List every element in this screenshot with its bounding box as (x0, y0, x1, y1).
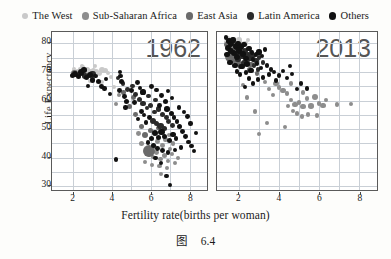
gridline-horizontal (217, 143, 377, 144)
scatter-point (170, 96, 174, 100)
scatter-point (176, 156, 180, 160)
legend-item-label: The West (32, 11, 72, 22)
scatter-point (132, 100, 137, 105)
x-axis-tick-label: 4 (102, 194, 122, 204)
scatter-point (300, 114, 304, 118)
scatter-point (272, 70, 276, 74)
gridline-vertical (131, 32, 132, 190)
legend-item-east-asia[interactable]: East Asia (186, 11, 237, 22)
scatter-point (170, 132, 175, 137)
x-axis-tick-label: 2 (63, 194, 83, 204)
scatter-point (136, 131, 141, 136)
gridline-vertical (190, 32, 191, 190)
x-axis-tick-label: 2 (228, 194, 248, 204)
scatter-point (81, 67, 87, 73)
legend-dot-icon (329, 12, 337, 20)
scatter-point (257, 132, 261, 136)
legend-item-others[interactable]: Others (329, 11, 369, 22)
gridline-horizontal (52, 143, 207, 144)
scatter-point (280, 88, 285, 93)
gridline-horizontal (52, 101, 207, 102)
scatter-point (167, 138, 172, 143)
gridline-horizontal (52, 186, 207, 187)
scatter-point (320, 103, 325, 108)
scatter-point (102, 86, 106, 90)
gridline-horizontal (217, 186, 377, 187)
scatter-point (129, 88, 134, 93)
scatter-point (104, 77, 108, 81)
legend-item-latin-america[interactable]: Latin America (247, 11, 320, 22)
legend-item-label: Sub-Saharan Africa (93, 11, 177, 22)
scatter-point (308, 103, 314, 109)
scatter-point (183, 134, 188, 139)
scatter-point (123, 105, 127, 109)
scatter-point (118, 74, 123, 79)
scatter-point (160, 148, 165, 153)
caption-number: 6.4 (201, 235, 215, 247)
x-axis-tick-mark (151, 192, 152, 195)
scatter-panel-2013: 2013 (216, 31, 378, 191)
x-axis-tick-label: 4 (269, 194, 289, 204)
x-axis-tick-mark (279, 192, 280, 195)
x-axis-1962: 2468 (51, 192, 208, 206)
scatter-point (142, 113, 146, 117)
scatter-point (300, 104, 305, 109)
scatter-point (114, 157, 118, 161)
scatter-point (192, 149, 196, 153)
scatter-point (143, 160, 147, 164)
legend-item-the-west[interactable]: The West (22, 11, 73, 22)
scatter-point (164, 174, 168, 178)
x-axis-tick-label: 6 (309, 194, 329, 204)
scatter-point (159, 172, 163, 176)
scatter-point (247, 76, 252, 81)
scatter-point (112, 85, 116, 89)
scatter-point (227, 60, 232, 65)
gridline-horizontal (217, 129, 377, 130)
scatter-point (159, 93, 164, 98)
figure-caption: 图6.4 (0, 232, 391, 248)
scatter-point (148, 103, 153, 108)
scatter-point (243, 85, 247, 89)
scatter-point (182, 110, 186, 114)
scatter-point (177, 105, 181, 109)
x-axis-tick-label: 6 (141, 194, 161, 204)
scatter-point (261, 75, 266, 80)
legend-item-sub-saharan-africa[interactable]: Sub-Saharan Africa (82, 11, 178, 22)
scatter-point (277, 73, 281, 77)
scatter-point (185, 114, 190, 119)
scatter-point (251, 81, 256, 86)
scatter-point (140, 101, 145, 106)
scatter-point (90, 77, 95, 82)
scatter-point (152, 130, 158, 136)
legend-item-label: Latin America (258, 11, 320, 22)
x-axis-tick-mark (319, 192, 320, 195)
legend-item-label: Others (340, 11, 369, 22)
scatter-point (188, 121, 192, 125)
x-axis-tick-mark (73, 192, 74, 195)
legend-dot-icon (247, 12, 255, 20)
x-axis-tick-mark (360, 192, 361, 195)
scatter-point (239, 64, 244, 69)
scatter-point (170, 152, 174, 156)
scatter-point (244, 61, 250, 67)
scatter-point (93, 64, 97, 68)
scatter-point (267, 87, 271, 91)
scatter-point (306, 112, 311, 117)
scatter-point (149, 136, 154, 141)
gridline-vertical (93, 32, 94, 190)
x-axis-tick-mark (238, 192, 239, 195)
scatter-point (253, 109, 257, 113)
scatter-point (189, 144, 193, 148)
scatter-point (179, 145, 183, 149)
scatter-point (142, 132, 148, 138)
scatter-point (133, 92, 138, 97)
scatter-point (335, 102, 339, 106)
gridline-vertical (359, 32, 360, 190)
scatter-point (315, 113, 319, 117)
scatter-point (255, 61, 260, 66)
legend-dot-icon (82, 12, 89, 19)
scatter-point (286, 104, 290, 108)
scatter-point (146, 140, 151, 145)
scatter-point (285, 76, 289, 80)
scatter-point (139, 141, 144, 146)
